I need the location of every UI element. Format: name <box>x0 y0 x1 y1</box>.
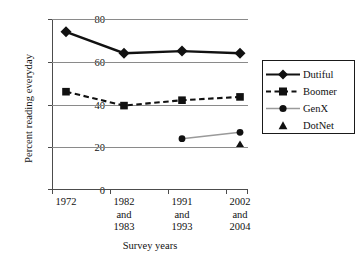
x-tick-mark-3 <box>226 190 227 194</box>
genx-line <box>182 132 240 138</box>
boomer-point-2002 <box>236 93 244 101</box>
series-dutiful <box>61 26 246 58</box>
x-axis-label-1982-line2: and <box>93 209 155 222</box>
x-axis-label-1972: 1972 <box>35 196 97 209</box>
legend-label-dotnet: DotNet <box>303 120 334 131</box>
x-tick-mark-end <box>247 190 248 194</box>
boomer-point-1982 <box>120 102 128 110</box>
y-axis-title: Percent reading everyday <box>23 19 34 199</box>
x-axis-label-1991-line3: 1993 <box>151 221 213 234</box>
series-layer <box>52 19 248 190</box>
x-axis-title: Survey years <box>52 240 248 251</box>
legend-item-genx: GenX <box>263 100 354 117</box>
dotnet-point-2002 <box>236 141 244 148</box>
legend-label-boomer: Boomer <box>303 86 337 97</box>
legend-key-boomer-icon <box>263 83 303 100</box>
x-axis-label-2002-2004: 2002 and 2004 <box>209 196 271 234</box>
legend-label-genx: GenX <box>303 103 328 114</box>
chart-container: Percent reading everyday 80 60 40 20 0 <box>0 0 359 265</box>
legend-key-dutiful-icon <box>263 66 303 83</box>
x-axis-label-2002-line1: 2002 <box>209 196 271 209</box>
x-axis-label-1982-line3: 1983 <box>93 221 155 234</box>
x-tick-mark-0 <box>52 190 53 194</box>
series-dotnet <box>236 141 244 148</box>
legend-item-boomer: Boomer <box>263 83 354 100</box>
legend-key-genx-icon <box>263 100 303 117</box>
legend-label-dutiful: Dutiful <box>303 69 333 80</box>
x-axis-label-1982-line1: 1982 <box>93 196 155 209</box>
boomer-line <box>66 92 240 106</box>
dutiful-point-2002 <box>235 48 246 59</box>
legend-item-dotnet: DotNet <box>263 117 354 134</box>
x-axis-label-1982-1983: 1982 and 1983 <box>93 196 155 234</box>
dutiful-point-1982 <box>119 48 130 59</box>
x-axis-label-1972-line1: 1972 <box>35 196 97 209</box>
series-genx <box>179 129 244 142</box>
legend-key-dotnet-icon <box>263 117 303 134</box>
x-axis-label-1991-1993: 1991 and 1993 <box>151 196 213 234</box>
legend: Dutiful Boomer GenX <box>262 60 355 134</box>
x-axis-label-1991-line1: 1991 <box>151 196 213 209</box>
dutiful-line <box>66 32 240 53</box>
boomer-point-1972 <box>62 88 70 96</box>
dutiful-point-1991 <box>177 46 188 57</box>
x-axis-label-2002-line2: and <box>209 209 271 222</box>
legend-item-dutiful: Dutiful <box>263 66 354 83</box>
genx-point-1991 <box>179 135 186 142</box>
dutiful-point-1972 <box>61 26 72 37</box>
plot-area <box>52 19 248 190</box>
x-axis-label-2002-line3: 2004 <box>209 221 271 234</box>
boomer-point-1991 <box>178 96 186 104</box>
series-boomer <box>62 88 244 110</box>
x-tick-mark-2 <box>168 190 169 194</box>
x-axis-label-1991-line2: and <box>151 209 213 222</box>
genx-point-2002 <box>237 129 244 136</box>
x-tick-mark-1 <box>110 190 111 194</box>
